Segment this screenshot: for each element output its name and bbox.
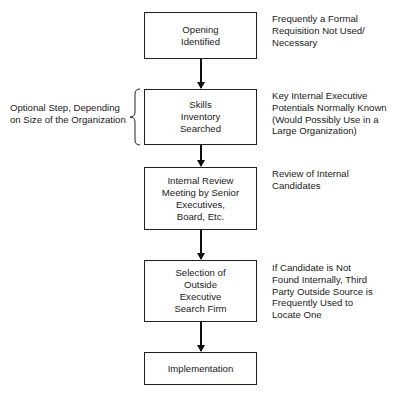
side-note-optional-step: Optional Step, Depending on Size of the …: [10, 102, 126, 126]
note-review: Review of Internal Candidates: [272, 168, 349, 192]
note-skills: Key Internal Executive Potentials Normal…: [272, 90, 387, 137]
arrow-down-icon: [200, 230, 202, 259]
curly-brace-icon: [128, 88, 142, 146]
step-opening-identified: Opening Identified: [144, 12, 257, 59]
arrow-down-icon: [200, 322, 202, 351]
arrow-down-icon: [200, 59, 202, 88]
step-label: Implementation: [168, 363, 234, 375]
step-skills-inventory: Skills Inventory Searched: [144, 89, 257, 145]
step-internal-review: Internal Review Meeting by Senior Execut…: [144, 167, 257, 230]
step-selection-search-firm: Selection of Outside Executive Search Fi…: [144, 260, 257, 322]
step-label: Skills Inventory Searched: [180, 99, 221, 135]
note-selection: If Candidate is Not Found Internally, Th…: [272, 262, 373, 321]
note-opening: Frequently a Formal Requisition Not Used…: [272, 13, 365, 48]
arrow-down-icon: [200, 145, 202, 166]
step-label: Selection of Outside Executive Search Fi…: [174, 267, 226, 315]
step-implementation: Implementation: [144, 352, 257, 385]
step-label: Opening Identified: [181, 24, 220, 48]
step-label: Internal Review Meeting by Senior Execut…: [162, 175, 239, 223]
